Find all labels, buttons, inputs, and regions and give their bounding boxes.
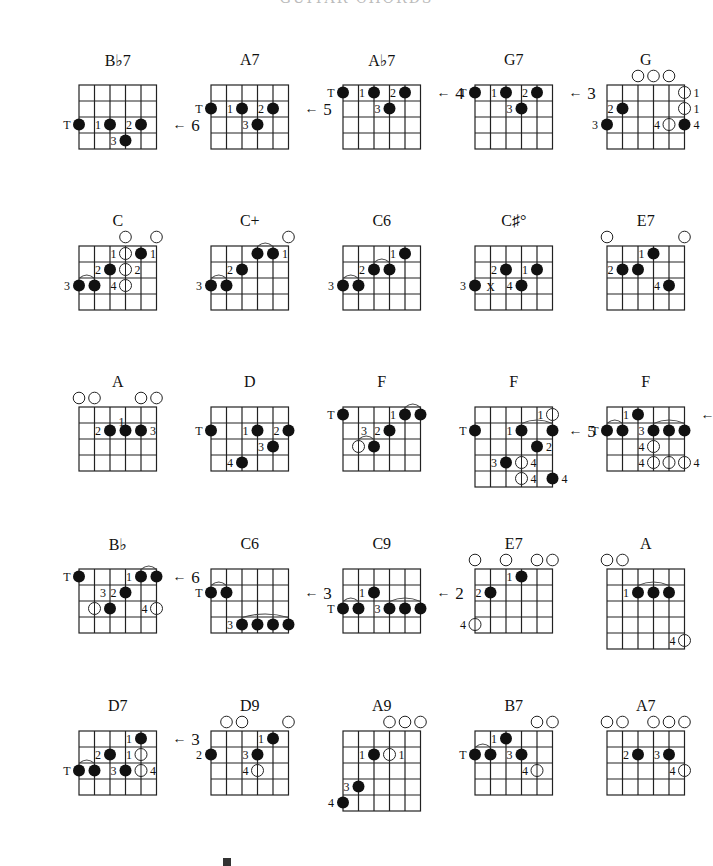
chord-diagram-a-2: A14 <box>580 539 712 689</box>
finger-label: 1 <box>491 86 497 100</box>
fret-arrow-icon: ← <box>701 407 713 422</box>
finger-label: 3 <box>64 279 70 293</box>
finger-label: 1 <box>623 408 629 422</box>
fret-grid <box>211 85 289 149</box>
finger-label: 1 <box>390 247 396 261</box>
finger-dot-icon <box>89 765 101 777</box>
finger-dot-icon <box>337 280 349 292</box>
finger-dot-icon <box>500 457 512 469</box>
chord-diagram-d7: D7121T34←3 <box>52 701 184 851</box>
finger-dot-icon <box>337 409 349 421</box>
finger-label: 4 <box>562 472 568 486</box>
finger-dot-icon <box>252 619 264 631</box>
finger-dot-icon <box>617 264 629 276</box>
finger-label: 3 <box>258 440 264 454</box>
fretboard-svg: 1T3←2 <box>316 539 448 689</box>
finger-label: 1 <box>359 86 365 100</box>
open-string-icon <box>399 716 411 728</box>
finger-dot-icon <box>353 781 365 793</box>
fretboard-svg: 112344 <box>580 55 712 205</box>
fretboard-svg: 213 <box>52 377 184 527</box>
finger-label: 2 <box>95 748 101 762</box>
finger-label: 3 <box>100 586 106 600</box>
finger-label: 3 <box>196 279 202 293</box>
finger-dot-icon <box>120 587 132 599</box>
fretboard-svg: T123←6 <box>52 55 184 205</box>
finger-dot-icon <box>617 103 629 115</box>
finger-label: 1 <box>623 586 629 600</box>
finger-dot-icon <box>221 280 233 292</box>
finger-dot-icon <box>516 280 528 292</box>
finger-dot-icon <box>663 425 675 437</box>
finger-label: 1 <box>507 570 513 584</box>
finger-dot-icon <box>89 280 101 292</box>
fretboard-svg: 2134X <box>448 216 580 366</box>
finger-dot-icon <box>648 248 660 260</box>
finger-label: 3 <box>111 134 117 148</box>
fretboard-svg: 1T123444←5 <box>448 377 580 527</box>
finger-label: T <box>459 424 467 438</box>
fret-grid <box>343 569 421 633</box>
finger-label: 2 <box>608 102 614 116</box>
open-string-icon <box>500 554 512 566</box>
finger-label: 4 <box>694 456 700 470</box>
finger-dot-icon <box>547 473 559 485</box>
open-string-icon <box>415 716 427 728</box>
finger-label: 2 <box>623 748 629 762</box>
chord-diagram-e7-2: E7124 <box>448 539 580 689</box>
fretboard-svg: T123←3 <box>448 55 580 205</box>
open-string-icon <box>617 554 629 566</box>
finger-dot-icon <box>252 248 264 260</box>
chord-diagram-csharp-dim: C♯°2134X <box>448 216 580 366</box>
fretboard-svg: 1T34 <box>448 701 580 851</box>
finger-label: 1 <box>639 247 645 261</box>
finger-dot-icon <box>500 264 512 276</box>
finger-label: 3 <box>507 748 513 762</box>
open-string-icon <box>151 392 163 404</box>
finger-label: 4 <box>150 764 156 778</box>
finger-label: 1 <box>359 586 365 600</box>
open-string-icon <box>236 716 248 728</box>
chord-diagram-g7: G7T123←3 <box>448 55 580 205</box>
finger-label: 4 <box>531 472 537 486</box>
finger-dot-icon <box>135 571 147 583</box>
chord-diagram-a7-2: A7234 <box>580 701 712 851</box>
finger-label: 1 <box>491 732 497 746</box>
finger-dot-icon <box>205 587 217 599</box>
finger-dot-icon <box>500 87 512 99</box>
chord-diagram-c6-1: C6123 <box>316 216 448 366</box>
finger-label: 1 <box>282 247 288 261</box>
finger-dot-icon <box>236 619 248 631</box>
finger-dot-icon <box>236 103 248 115</box>
finger-dot-icon <box>151 571 163 583</box>
finger-label: 1 <box>390 408 396 422</box>
fretboard-svg: T123 <box>316 377 448 527</box>
finger-label: 2 <box>227 263 233 277</box>
finger-label: 3 <box>111 764 117 778</box>
finger-label: 1 <box>694 86 700 100</box>
chord-diagram-c6-2: C6T3←3 <box>184 539 316 689</box>
fretboard-svg: T3←3 <box>184 539 316 689</box>
finger-label: 4 <box>670 764 676 778</box>
finger-dot-icon <box>601 425 613 437</box>
finger-dot-icon <box>252 749 264 761</box>
finger-label: 4 <box>654 118 660 132</box>
finger-dot-icon <box>500 733 512 745</box>
fretboard-svg: 112234 <box>52 216 184 366</box>
finger-dot-icon <box>415 409 427 421</box>
finger-dot-icon <box>267 733 279 745</box>
open-string-icon <box>384 716 396 728</box>
finger-dot-icon <box>648 587 660 599</box>
finger-label: 2 <box>258 102 264 116</box>
finger-label: 2 <box>608 263 614 277</box>
finger-dot-icon <box>531 87 543 99</box>
finger-label: 3 <box>592 118 598 132</box>
finger-label: 2 <box>135 263 141 277</box>
finger-dot-icon <box>632 409 644 421</box>
finger-dot-icon <box>547 425 559 437</box>
open-string-icon <box>469 554 481 566</box>
finger-dot-icon <box>399 87 411 99</box>
finger-label: 1 <box>126 570 132 584</box>
finger-dot-icon <box>252 425 264 437</box>
chord-diagram-ab7: A♭7T123←4 <box>316 55 448 205</box>
